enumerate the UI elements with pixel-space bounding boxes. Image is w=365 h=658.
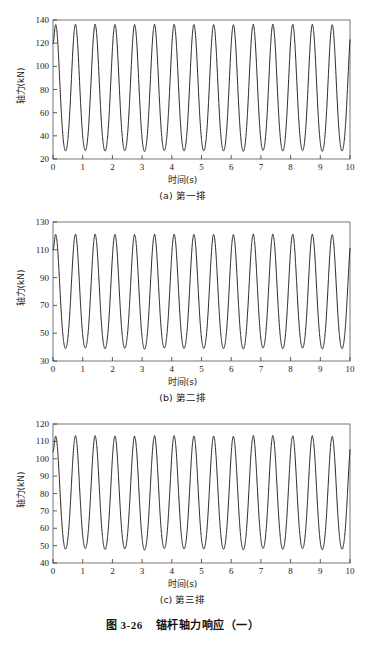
svg-text:6: 6: [229, 364, 234, 374]
svg-text:60: 60: [40, 108, 50, 118]
svg-text:50: 50: [40, 328, 50, 338]
svg-text:70: 70: [40, 506, 50, 516]
svg-text:8: 8: [288, 162, 293, 172]
subcaption-a: (a) 第一排: [0, 188, 365, 202]
svg-text:70: 70: [40, 300, 50, 310]
svg-text:10: 10: [346, 364, 356, 374]
svg-text:10: 10: [346, 566, 356, 576]
svg-text:0: 0: [51, 162, 56, 172]
svg-text:8: 8: [288, 566, 293, 576]
chart-svg-b: 01234567891030507090110130: [0, 202, 365, 374]
svg-text:7: 7: [259, 162, 264, 172]
svg-text:0: 0: [51, 364, 56, 374]
figure-caption: 图 3-26 锚杆轴力响应（一）: [106, 616, 259, 632]
svg-text:0: 0: [51, 566, 56, 576]
svg-text:20: 20: [40, 154, 50, 164]
svg-text:3: 3: [140, 566, 145, 576]
svg-text:30: 30: [40, 356, 50, 366]
figure-caption-text: 锚杆轴力响应（一）: [156, 619, 260, 632]
chart-svg-c: 012345678910405060708090100110120: [0, 404, 365, 576]
y-axis-label-a: 轴力(kN): [14, 68, 27, 105]
svg-text:9: 9: [318, 162, 323, 172]
svg-text:50: 50: [40, 541, 50, 551]
svg-text:40: 40: [40, 558, 50, 568]
svg-text:110: 110: [36, 436, 50, 446]
svg-text:140: 140: [36, 15, 50, 25]
svg-text:100: 100: [36, 61, 50, 71]
svg-text:9: 9: [318, 566, 323, 576]
x-axis-label-b: 时间(s): [0, 375, 365, 388]
plot-area-b: 轴力(kN) 01234567891030507090110130: [0, 202, 365, 374]
svg-text:4: 4: [170, 566, 175, 576]
subcaption-c: (c) 第三排: [0, 592, 365, 606]
svg-text:80: 80: [40, 85, 50, 95]
svg-text:3: 3: [140, 162, 145, 172]
svg-text:2: 2: [110, 162, 115, 172]
svg-text:7: 7: [259, 364, 264, 374]
y-axis-label-b: 轴力(kN): [14, 270, 27, 307]
svg-text:9: 9: [318, 364, 323, 374]
svg-text:6: 6: [229, 162, 234, 172]
svg-text:40: 40: [40, 131, 50, 141]
svg-text:10: 10: [346, 162, 356, 172]
svg-text:2: 2: [110, 364, 115, 374]
svg-text:90: 90: [40, 471, 50, 481]
chart-panel-b: 轴力(kN) 01234567891030507090110130 时间(s) …: [0, 202, 365, 404]
svg-text:1: 1: [80, 364, 85, 374]
svg-text:120: 120: [36, 38, 50, 48]
svg-text:120: 120: [36, 419, 50, 429]
plot-area-a: 轴力(kN) 01234567891020406080100120140: [0, 0, 365, 172]
svg-text:8: 8: [288, 364, 293, 374]
x-axis-label-a: 时间(s): [0, 173, 365, 186]
figure-caption-number: 图 3-26: [106, 619, 143, 631]
svg-text:5: 5: [199, 162, 204, 172]
chart-svg-a: 01234567891020406080100120140: [0, 0, 365, 172]
svg-text:5: 5: [199, 364, 204, 374]
svg-text:1: 1: [80, 162, 85, 172]
figure-page: 轴力(kN) 01234567891020406080100120140 时间(…: [0, 0, 365, 658]
y-axis-label-c: 轴力(kN): [14, 472, 27, 509]
svg-text:4: 4: [170, 162, 175, 172]
svg-text:6: 6: [229, 566, 234, 576]
plot-area-c: 轴力(kN) 012345678910405060708090100110120: [0, 404, 365, 576]
svg-text:3: 3: [140, 364, 145, 374]
subcaption-b: (b) 第二排: [0, 390, 365, 404]
svg-text:4: 4: [170, 364, 175, 374]
svg-text:90: 90: [40, 273, 50, 283]
chart-panel-c: 轴力(kN) 012345678910405060708090100110120…: [0, 404, 365, 606]
x-axis-label-c: 时间(s): [0, 577, 365, 590]
svg-text:110: 110: [36, 245, 50, 255]
svg-text:130: 130: [36, 217, 50, 227]
svg-text:100: 100: [36, 454, 50, 464]
svg-text:7: 7: [259, 566, 264, 576]
chart-panel-a: 轴力(kN) 01234567891020406080100120140 时间(…: [0, 0, 365, 202]
svg-text:60: 60: [40, 523, 50, 533]
svg-text:1: 1: [80, 566, 85, 576]
svg-text:2: 2: [110, 566, 115, 576]
svg-text:80: 80: [40, 489, 50, 499]
svg-text:5: 5: [199, 566, 204, 576]
